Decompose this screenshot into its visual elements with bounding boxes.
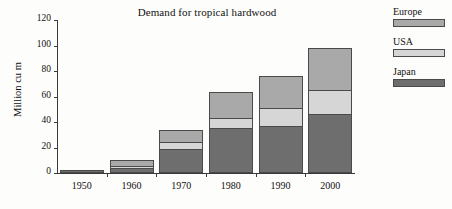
- y-axis-tick-label: 0: [46, 166, 51, 176]
- bar-segment-usa[interactable]: [308, 90, 352, 116]
- x-axis-tick-mark: [256, 173, 257, 177]
- legend-item-swatch: [393, 19, 445, 27]
- x-axis-tick-mark: [156, 173, 157, 177]
- bar-segment-japan[interactable]: [159, 149, 203, 173]
- bar-stack[interactable]: [60, 170, 104, 173]
- x-axis-tick-mark: [305, 173, 306, 177]
- bar-segment-japan[interactable]: [308, 114, 352, 173]
- bar-segment-europe[interactable]: [209, 92, 253, 119]
- legend-item-usa[interactable]: USA: [393, 36, 451, 57]
- bar-segment-japan[interactable]: [209, 128, 253, 173]
- bar-segment-europe[interactable]: [308, 48, 352, 91]
- bar-stack[interactable]: [259, 76, 303, 173]
- bar-stack[interactable]: [209, 92, 253, 173]
- y-axis-tick-mark: [54, 173, 57, 174]
- bar-stack[interactable]: [159, 130, 203, 173]
- bar-segment-japan[interactable]: [259, 126, 303, 173]
- y-axis-tick-label: 120: [37, 13, 51, 23]
- x-axis-tick-mark: [107, 173, 108, 177]
- y-axis-tick-label: 100: [37, 39, 51, 49]
- y-axis-tick-label: 40: [42, 115, 52, 125]
- legend-item-japan[interactable]: Japan: [393, 66, 451, 87]
- bar-segment-usa[interactable]: [259, 108, 303, 127]
- y-axis-tick-label: 60: [42, 90, 52, 100]
- x-axis-tick-mark: [206, 173, 207, 177]
- chart-legend: EuropeUSAJapan: [393, 6, 451, 96]
- bar-stack[interactable]: [308, 48, 352, 173]
- chart-figure: Demand for tropical hardwood Million cu …: [0, 0, 452, 209]
- legend-item-label: Europe: [393, 6, 451, 18]
- legend-item-europe[interactable]: Europe: [393, 6, 451, 27]
- y-axis-title: Million cu m: [12, 40, 23, 140]
- chart-title: Demand for tropical hardwood: [57, 6, 357, 18]
- y-axis-tick-label: 80: [42, 64, 52, 74]
- legend-item-label: Japan: [393, 66, 451, 78]
- bar-segment-europe[interactable]: [259, 76, 303, 109]
- legend-item-swatch: [393, 79, 445, 87]
- bar-segment-japan[interactable]: [110, 168, 154, 173]
- y-axis-tick-label: 20: [42, 141, 52, 151]
- legend-item-swatch: [393, 49, 445, 57]
- bar-stack[interactable]: [110, 160, 154, 173]
- bar-segment-japan[interactable]: [60, 170, 104, 173]
- x-axis-tick-label: 2000: [300, 180, 360, 191]
- legend-item-label: USA: [393, 36, 451, 48]
- plot-area: [57, 20, 355, 173]
